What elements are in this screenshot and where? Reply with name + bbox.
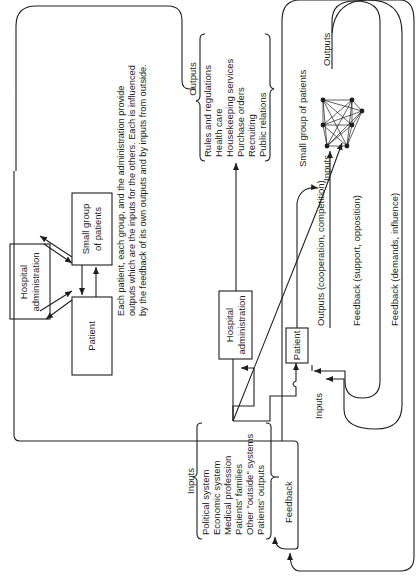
main-hospital-admin-label-1: Hospital bbox=[224, 308, 235, 342]
small-group-network bbox=[321, 98, 365, 149]
systems-diagram: Hospital administration Patient Small gr… bbox=[0, 0, 420, 581]
group-inputs-label: Inputs bbox=[321, 155, 332, 181]
inset-caption-line-3: by the feedback of its own outputs and b… bbox=[138, 64, 148, 316]
small-group-label: Small group of patients bbox=[297, 70, 308, 167]
inputs-item: Patients' outputs bbox=[255, 465, 266, 535]
outputs-item: Rules and regulations bbox=[202, 65, 213, 157]
main-diagram: Inputs Political system Economic system … bbox=[14, 0, 414, 571]
outputs-item: Purchase orders bbox=[235, 87, 246, 157]
inputs-item: Other "outside" systems bbox=[244, 433, 255, 535]
inputs-item: Patients' families bbox=[233, 464, 244, 535]
inset-diagram: Hospital administration Patient Small gr… bbox=[10, 64, 148, 375]
patient-inputs-label: Inputs bbox=[313, 393, 324, 419]
outputs-item: Public relations bbox=[257, 92, 268, 157]
patient-outputs-label: Outputs (cooperation, competition) bbox=[315, 180, 326, 326]
outputs-item: Health care bbox=[213, 108, 224, 157]
inset-small-group-label-1: Small group bbox=[80, 204, 91, 255]
outputs-title: Outputs bbox=[187, 62, 198, 96]
diagram-stage: Hospital administration Patient Small gr… bbox=[0, 0, 420, 581]
feedback-return-arrow bbox=[275, 537, 286, 549]
inset-patient-label: Patient bbox=[86, 321, 97, 351]
inset-caption-line-2: outputs which are the inputs for the oth… bbox=[127, 65, 137, 316]
inset-small-group-label-2: of patients bbox=[92, 207, 103, 251]
feedback-demands-label: Feedback (demands, influence) bbox=[389, 193, 400, 326]
outputs-item: Recruiting bbox=[246, 114, 257, 157]
inputs-title: Inputs bbox=[185, 468, 196, 494]
inputs-item: Political system bbox=[200, 469, 211, 535]
main-patient-label: Patient bbox=[291, 330, 302, 360]
inset-hospital-admin-label-1: Hospital bbox=[18, 265, 29, 299]
feedback-support-label: Feedback (support, opposition) bbox=[351, 195, 362, 326]
feedback-label: Feedback bbox=[283, 481, 294, 523]
main-hospital-admin-label-2: administration bbox=[236, 295, 247, 354]
inputs-brace-bottom bbox=[266, 423, 275, 539]
outputs-item: Housekeeping services bbox=[224, 59, 235, 157]
group-outputs-label: Outputs bbox=[321, 32, 332, 66]
inputs-to-patient-arrow bbox=[233, 363, 296, 421]
inset-caption-line-1: Each patient, each group, and the admini… bbox=[116, 86, 126, 316]
outputs-feedback-loop bbox=[16, 6, 196, 171]
inputs-item: Economic system bbox=[211, 460, 222, 535]
inputs-item: Medical profession bbox=[222, 456, 233, 535]
inset-hospital-admin-label-2: administration bbox=[30, 252, 41, 311]
